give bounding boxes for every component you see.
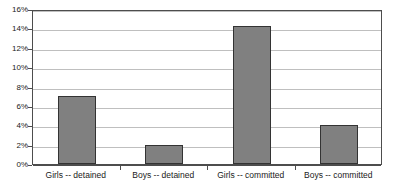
y-axis-tick-label: 6% <box>0 103 28 111</box>
y-axis-tick-label: 8% <box>0 84 28 92</box>
y-axis-tick-label: 14% <box>0 25 28 33</box>
y-axis-tick-label: 2% <box>0 142 28 150</box>
gridline <box>33 11 381 12</box>
x-axis-tick <box>207 165 208 170</box>
bar <box>320 125 358 164</box>
y-axis-tick-label: 16% <box>0 6 28 14</box>
bar-chart: 0%2%4%6%8%10%12%14%16% Girls -- detained… <box>0 0 393 191</box>
x-axis-category-label: Boys -- detained <box>120 171 208 180</box>
bar <box>145 145 183 164</box>
x-axis-category-label: Girls -- detained <box>32 171 120 180</box>
gridline <box>33 30 381 31</box>
y-axis-tick-label: 12% <box>0 45 28 53</box>
y-axis-tick-label: 10% <box>0 64 28 72</box>
gridline <box>33 50 381 51</box>
bar <box>58 96 96 164</box>
x-axis-tick <box>295 165 296 170</box>
gridline <box>33 69 381 70</box>
plot-area <box>32 10 382 165</box>
y-axis-tick <box>28 165 32 166</box>
y-axis-tick-label: 0% <box>0 161 28 169</box>
x-axis-category-label: Girls -- committed <box>207 171 295 180</box>
x-axis-tick <box>120 165 121 170</box>
x-axis-category-label: Boys -- committed <box>295 171 383 180</box>
bar <box>233 26 271 164</box>
gridline <box>33 89 381 90</box>
y-axis-tick-label: 4% <box>0 122 28 130</box>
